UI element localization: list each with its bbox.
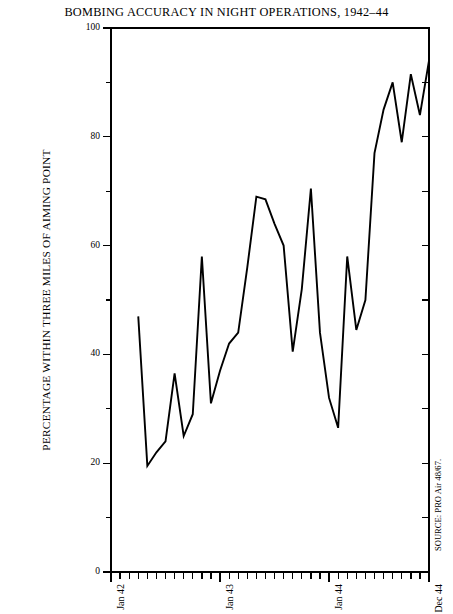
y-tick-minor — [106, 299, 111, 300]
x-tick — [183, 572, 184, 579]
x-tick — [210, 572, 211, 579]
x-tick-label: Jan 42 — [115, 584, 126, 610]
x-tick — [392, 572, 393, 579]
x-tick — [238, 572, 239, 579]
x-tick — [365, 572, 366, 579]
x-tick — [347, 572, 348, 579]
y-tick-minor-right — [422, 408, 428, 409]
x-tick — [129, 572, 130, 579]
y-tick-label: 40 — [0, 348, 112, 358]
x-tick — [338, 572, 339, 579]
y-tick-minor — [106, 82, 111, 83]
x-tick — [328, 572, 330, 582]
y-tick-major-right — [422, 245, 429, 246]
x-tick — [138, 572, 139, 579]
y-tick-minor-right — [422, 517, 428, 518]
y-tick-label: 100 — [0, 22, 112, 32]
y-tick-label: 60 — [0, 240, 112, 250]
x-tick — [110, 572, 112, 582]
x-tick — [119, 572, 120, 579]
x-tick-label: Dec 44 — [433, 584, 444, 613]
x-tick — [256, 572, 257, 579]
x-tick — [174, 572, 175, 579]
x-tick — [147, 572, 148, 579]
y-tick-minor — [106, 517, 111, 518]
y-tick-label: 20 — [0, 457, 112, 467]
x-tick — [310, 572, 311, 579]
x-tick — [383, 572, 384, 579]
x-tick — [265, 572, 266, 579]
x-tick-label: Jan 44 — [333, 584, 344, 610]
x-tick — [419, 572, 420, 579]
x-tick — [192, 572, 193, 579]
x-tick — [229, 572, 230, 579]
chart-title: BOMBING ACCURACY IN NIGHT OPERATIONS, 19… — [0, 5, 453, 20]
y-tick-minor-right — [422, 299, 428, 300]
source-note: SOURCE: PRO Air 48/67. — [433, 459, 443, 551]
plot-frame-top — [110, 27, 430, 29]
x-tick — [201, 572, 202, 579]
y-tick-minor-right — [422, 82, 428, 83]
x-tick — [156, 572, 157, 579]
x-tick — [247, 572, 248, 579]
y-tick-minor-right — [422, 191, 428, 192]
x-tick — [301, 572, 302, 579]
chart-figure: BOMBING ACCURACY IN NIGHT OPERATIONS, 19… — [0, 0, 453, 614]
data-series-line — [138, 61, 429, 466]
x-tick — [374, 572, 375, 579]
y-tick-label: 0 — [0, 566, 112, 576]
y-axis-title: PERCENTAGE WITHIN THREE MILES OF AIMING … — [40, 149, 52, 450]
y-tick-major-right — [422, 463, 429, 464]
x-tick-label: Jan 43 — [224, 584, 235, 610]
x-tick — [219, 572, 221, 582]
x-tick — [410, 572, 411, 579]
y-tick-minor — [106, 408, 111, 409]
x-tick — [283, 572, 284, 579]
x-tick — [356, 572, 357, 579]
x-tick — [292, 572, 293, 579]
x-tick — [165, 572, 166, 579]
x-tick — [274, 572, 275, 579]
x-tick — [401, 572, 402, 579]
y-tick-major-right — [422, 136, 429, 137]
y-tick-minor — [106, 191, 111, 192]
y-tick-major-right — [422, 354, 429, 355]
plot-frame-right — [428, 27, 430, 573]
data-line-chart — [0, 0, 453, 614]
x-tick — [428, 572, 430, 582]
x-tick — [319, 572, 320, 579]
y-tick-label: 80 — [0, 131, 112, 141]
